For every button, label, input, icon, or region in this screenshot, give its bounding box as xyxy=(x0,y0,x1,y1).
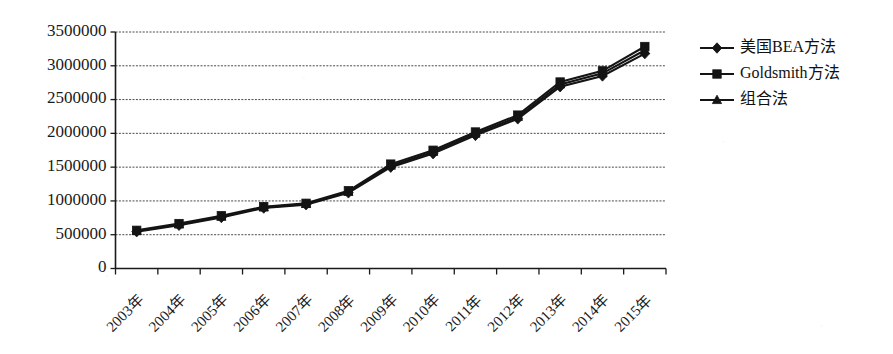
x-axis-tick-label: 2008年 xyxy=(315,292,358,335)
x-axis-tick-label: 2010年 xyxy=(400,292,443,335)
legend-item-1[interactable]: 美国BEA方法 xyxy=(700,38,836,55)
x-axis-tick-label: 2012年 xyxy=(484,292,527,335)
x-axis-tick-label: 2013年 xyxy=(527,292,570,335)
y-axis-tick-label: 1000000 xyxy=(47,190,107,209)
y-axis-tick-labels: 3500000300000025000002000000150000010000… xyxy=(47,21,107,277)
y-axis-tick-label: 0 xyxy=(98,257,107,276)
y-axis-tick-label: 1500000 xyxy=(47,156,107,175)
y-axis-tick-label: 3000000 xyxy=(47,55,107,74)
x-axis-tick-label: 2004年 xyxy=(146,292,189,335)
legend-item-3[interactable]: 组合法 xyxy=(700,90,788,107)
x-axis-tick-label: 2009年 xyxy=(357,292,400,335)
x-axis-tick-label: 2011年 xyxy=(442,292,485,335)
series-1 xyxy=(132,48,650,237)
x-axis-tick-label: 2006年 xyxy=(230,292,273,335)
x-axis-tick-labels: 2003年2004年2005年2006年2007年2008年2009年2010年… xyxy=(103,292,654,335)
x-axis-tick-label: 2007年 xyxy=(273,292,316,335)
y-axis-tick-label: 2500000 xyxy=(47,88,107,107)
y-axis-tick-label: 3500000 xyxy=(47,21,107,40)
legend-item-2[interactable]: Goldsmith方法 xyxy=(700,64,840,81)
series-line xyxy=(137,47,645,231)
y-axis-tick-label: 2000000 xyxy=(47,122,107,141)
diamond-marker xyxy=(712,43,722,54)
series-line xyxy=(137,50,645,231)
x-axis-tick-label: 2015年 xyxy=(611,292,654,335)
series-2 xyxy=(132,42,649,234)
legend-label: Goldsmith方法 xyxy=(740,64,840,81)
line-chart-figure: 3500000300000025000002000000150000010000… xyxy=(0,0,893,354)
square-marker xyxy=(713,70,721,78)
chart-legend: 美国BEA方法Goldsmith方法组合法 xyxy=(700,38,840,107)
gridlines xyxy=(116,32,667,235)
legend-label: 美国BEA方法 xyxy=(740,38,836,55)
x-axis-tick-marks xyxy=(116,269,667,275)
x-axis-tick-label: 2005年 xyxy=(188,292,231,335)
x-axis-tick-label: 2014年 xyxy=(569,292,612,335)
x-axis-tick-label: 2003年 xyxy=(103,292,146,335)
y-axis-tick-label: 500000 xyxy=(56,224,107,243)
chart-canvas: 3500000300000025000002000000150000010000… xyxy=(0,0,893,354)
data-series-group xyxy=(132,42,650,237)
series-3 xyxy=(132,45,649,234)
legend-label: 组合法 xyxy=(740,90,788,107)
